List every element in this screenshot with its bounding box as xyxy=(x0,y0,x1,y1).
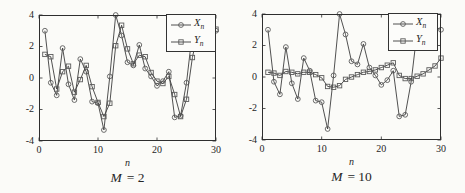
legend-entry-x: Xn xyxy=(393,16,434,32)
x-tick-label: 20 xyxy=(143,144,171,156)
y-tick-label: -2 xyxy=(0,103,34,115)
y-tick-label: -4 xyxy=(0,135,34,147)
y-tick-label: -4 xyxy=(233,134,257,146)
x-tick-label: 10 xyxy=(84,144,112,156)
x-tick-label: 30 xyxy=(202,144,230,156)
legend: Xn Yn xyxy=(388,13,438,51)
plot-panel-m2: Xn Yn n M= 2 0102030420-2-4 xyxy=(0,0,232,193)
caption-m10: M= 10 xyxy=(262,169,441,185)
legend-label-x: Xn xyxy=(416,17,426,31)
y-tick-label: -2 xyxy=(233,102,257,114)
y-tick-label: 0 xyxy=(233,71,257,83)
x-tick-label: 10 xyxy=(308,143,336,155)
circle-marker-icon xyxy=(393,19,413,29)
square-marker-icon xyxy=(393,36,413,46)
legend-entry-y: Yn xyxy=(393,33,434,49)
x-tick-label: 30 xyxy=(427,143,455,155)
y-tick-label: 4 xyxy=(233,8,257,20)
square-marker-icon xyxy=(171,37,191,47)
x-axis-label: n xyxy=(39,157,216,168)
legend-entry-x: Xn xyxy=(171,17,212,33)
legend-label-x: Xn xyxy=(194,18,204,32)
legend-entry-y: Yn xyxy=(171,34,212,50)
plot-panel-m10: Xn Yn n M= 10 0102030420-2-4 xyxy=(233,0,465,193)
caption-m2: M= 2 xyxy=(39,170,216,186)
x-tick-label: 20 xyxy=(367,143,395,155)
legend-label-y: Yn xyxy=(194,35,204,49)
x-axis-label: n xyxy=(262,156,441,167)
figure: Xn Yn n M= 2 0102030420-2-4 Xn Yn n M= 1… xyxy=(0,0,465,193)
y-tick-label: 2 xyxy=(0,40,34,52)
y-tick-label: 2 xyxy=(233,39,257,51)
circle-marker-icon xyxy=(171,20,191,30)
legend: Xn Yn xyxy=(166,14,216,52)
legend-label-y: Yn xyxy=(416,34,426,48)
y-tick-label: 0 xyxy=(0,72,34,84)
y-tick-label: 4 xyxy=(0,9,34,21)
